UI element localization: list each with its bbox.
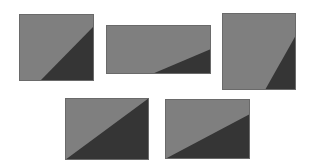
- split-rectangle-1: [19, 14, 94, 81]
- split-rectangle-3: [222, 13, 296, 90]
- diagram-canvas: [0, 0, 309, 168]
- diagonal-split-rectangles: [0, 0, 309, 168]
- split-rectangle-5: [165, 99, 250, 159]
- split-rectangle-2: [106, 25, 211, 74]
- split-rectangle-4: [65, 98, 149, 160]
